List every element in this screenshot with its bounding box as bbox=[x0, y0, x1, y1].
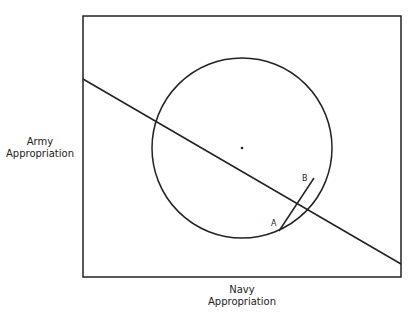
segment-ab bbox=[279, 178, 314, 231]
y-axis-label-line2: Appropriation bbox=[0, 148, 80, 160]
point-b-label: B bbox=[302, 174, 308, 183]
center-dot bbox=[241, 147, 244, 150]
y-axis-label: Army Appropriation bbox=[0, 136, 80, 160]
y-axis-label-line1: Army bbox=[0, 136, 80, 148]
x-axis-label-line2: Appropriation bbox=[192, 296, 292, 308]
x-axis-label: Navy Appropriation bbox=[192, 284, 292, 308]
budget-line bbox=[83, 79, 401, 264]
point-a-label: A bbox=[271, 219, 277, 228]
x-axis-label-line1: Navy bbox=[192, 284, 292, 296]
